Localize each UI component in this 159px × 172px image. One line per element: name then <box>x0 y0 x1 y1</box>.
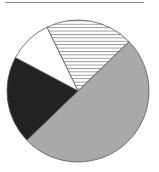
pie-chart <box>0 0 159 172</box>
